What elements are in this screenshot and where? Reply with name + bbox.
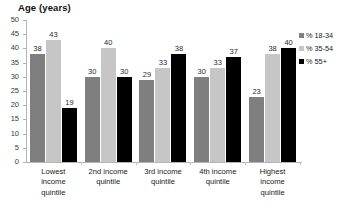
legend-item-label: % 55+ (306, 57, 327, 66)
legend-item[interactable]: % 18-34 (299, 29, 349, 42)
bar[interactable] (171, 54, 186, 162)
bar[interactable] (226, 57, 241, 162)
bar-group-bars: 293338 (136, 20, 191, 162)
x-axis-category-label: 3rd income quintile (136, 167, 191, 188)
bar-group: 233840 (245, 20, 300, 162)
bar-column[interactable]: 19 (62, 20, 77, 162)
bar-column[interactable]: 38 (171, 20, 186, 162)
x-axis-line (26, 162, 302, 163)
bar-column[interactable]: 38 (30, 20, 45, 162)
y-axis-tick-label: 45 (11, 29, 19, 38)
bar[interactable] (210, 68, 225, 162)
legend-item[interactable]: % 55+ (299, 55, 349, 68)
bar-group-bars: 303337 (190, 20, 245, 162)
bar[interactable] (249, 97, 264, 162)
bar-column[interactable]: 23 (249, 20, 264, 162)
bar-chart: Age (years) 50454035302520151050 3843193… (0, 0, 349, 215)
bar[interactable] (101, 48, 116, 162)
bar-value-label: 23 (252, 87, 260, 96)
bar-group-bars: 233840 (245, 20, 300, 162)
bar-value-label: 30 (198, 67, 206, 76)
bar-value-label: 29 (143, 70, 151, 79)
y-axis-tick-mark (23, 162, 26, 163)
x-axis-category-label: Highest income quintile (245, 167, 300, 198)
bar-value-label: 37 (230, 47, 238, 56)
legend-swatch-icon (299, 46, 304, 51)
bar-column[interactable]: 30 (85, 20, 100, 162)
legend-swatch-icon (299, 59, 304, 64)
y-axis-tick-label: 5 (15, 143, 19, 152)
bar-column[interactable]: 40 (101, 20, 116, 162)
bar-group-bars: 304030 (81, 20, 136, 162)
bar[interactable] (30, 54, 45, 162)
bar-value-label: 40 (284, 38, 292, 47)
x-axis-group-separator (190, 162, 191, 165)
x-axis-group-separator (245, 162, 246, 165)
bar-column[interactable]: 33 (155, 20, 170, 162)
bar[interactable] (281, 48, 296, 162)
bar-group: 293338 (136, 20, 191, 162)
bar[interactable] (62, 108, 77, 162)
bar[interactable] (46, 40, 61, 162)
y-axis-tick-label: 15 (11, 114, 19, 123)
legend-swatch-icon (299, 33, 304, 38)
bar-column[interactable]: 37 (226, 20, 241, 162)
y-axis-tick-label: 40 (11, 43, 19, 52)
bar-value-label: 40 (104, 38, 112, 47)
bar-column[interactable]: 30 (117, 20, 132, 162)
bar[interactable] (117, 77, 132, 162)
y-axis-tick-label: 0 (15, 157, 19, 166)
bar-value-label: 43 (49, 30, 57, 39)
legend-item[interactable]: % 35-54 (299, 42, 349, 55)
bar-group: 304030 (81, 20, 136, 162)
y-axis-tick-label: 20 (11, 100, 19, 109)
bar-group-bars: 384319 (26, 20, 81, 162)
bar-value-label: 30 (88, 67, 96, 76)
bar-column[interactable]: 33 (210, 20, 225, 162)
bar[interactable] (155, 68, 170, 162)
bar-column[interactable]: 30 (194, 20, 209, 162)
chart-legend: % 18-34% 35-54% 55+ (299, 29, 349, 68)
bar[interactable] (139, 80, 154, 162)
x-axis-category-label: 2nd income quintile (81, 167, 136, 188)
legend-item-label: % 35-54 (306, 44, 333, 53)
bar-value-label: 30 (120, 67, 128, 76)
x-axis-group-separator (300, 162, 301, 165)
bar-group: 303337 (190, 20, 245, 162)
y-axis-tick-label: 30 (11, 72, 19, 81)
bar-value-label: 38 (268, 44, 276, 53)
bar-value-label: 33 (214, 58, 222, 67)
x-axis-group-separator (81, 162, 82, 165)
bar[interactable] (265, 54, 280, 162)
x-axis-group-separator (136, 162, 137, 165)
legend-item-label: % 18-34 (306, 31, 333, 40)
bar-group: 384319 (26, 20, 81, 162)
bar-value-label: 38 (175, 44, 183, 53)
bar[interactable] (85, 77, 100, 162)
bar-column[interactable]: 43 (46, 20, 61, 162)
bar-value-label: 19 (65, 98, 73, 107)
bar-value-label: 38 (33, 44, 41, 53)
y-axis-tick-label: 35 (11, 58, 19, 67)
bar-column[interactable]: 29 (139, 20, 154, 162)
x-axis-category-label: 4th income quintile (190, 167, 245, 188)
x-axis-category-label: Lowest income quintile (26, 167, 81, 198)
bar-value-label: 33 (159, 58, 167, 67)
y-axis-tick-label: 25 (11, 86, 19, 95)
bar[interactable] (194, 77, 209, 162)
bar-column[interactable]: 40 (281, 20, 296, 162)
chart-title: Age (years) (18, 2, 71, 13)
bar-column[interactable]: 38 (265, 20, 280, 162)
y-axis-tick-label: 10 (11, 129, 19, 138)
plot-area: 384319304030293338303337233840 (26, 20, 300, 162)
y-axis-tick-label: 50 (11, 15, 19, 24)
